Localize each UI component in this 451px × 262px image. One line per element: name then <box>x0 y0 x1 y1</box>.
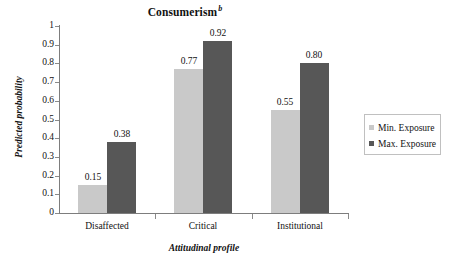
y-axis-title: Predicted probability <box>14 42 24 192</box>
bar-critical-max-exposure[interactable] <box>203 41 232 213</box>
chart-figure: Consumerismb 00.10.20.30.40.50.60.70.80.… <box>0 0 451 262</box>
y-axis-tick-label: 1 <box>14 21 54 31</box>
bar-value-label: 0.38 <box>104 129 140 139</box>
legend-label-min-exposure: Min. Exposure <box>378 123 434 133</box>
bar-institutional-max-exposure[interactable] <box>300 63 329 213</box>
x-axis-title: Attitudinal profile <box>59 243 349 253</box>
bar-value-label: 0.92 <box>200 28 236 38</box>
chart-title: Consumerismb <box>0 4 370 18</box>
chart-legend: Min. Exposure Max. Exposure <box>364 114 441 155</box>
chart-title-text: Consumerism <box>148 6 217 18</box>
x-axis-category-label: Critical <box>155 221 251 232</box>
x-axis-line <box>59 213 349 214</box>
bar-disaffected-max-exposure[interactable] <box>107 142 136 213</box>
legend-swatch-min-exposure-icon <box>369 125 374 130</box>
bar-institutional-min-exposure[interactable] <box>271 110 300 213</box>
x-axis-separator-tick <box>252 214 253 219</box>
chart-title-superscript: b <box>218 4 222 13</box>
legend-swatch-max-exposure-icon <box>369 141 374 146</box>
y-axis-tick-label: 0 <box>14 208 54 218</box>
legend-label-max-exposure: Max. Exposure <box>378 139 436 149</box>
x-axis-category-label: Institutional <box>252 221 348 232</box>
bar-disaffected-min-exposure[interactable] <box>78 185 107 213</box>
bar-value-label: 0.15 <box>75 172 111 182</box>
bar-critical-min-exposure[interactable] <box>174 69 203 213</box>
bar-value-label: 0.77 <box>171 56 207 66</box>
legend-item-max-exposure[interactable]: Max. Exposure <box>369 136 440 151</box>
x-axis-separator-tick <box>155 214 156 219</box>
x-axis-separator-tick <box>348 214 349 219</box>
bar-value-label: 0.55 <box>267 97 303 107</box>
x-axis-category-label: Disaffected <box>59 221 155 232</box>
bar-value-label: 0.80 <box>296 50 332 60</box>
legend-item-min-exposure[interactable]: Min. Exposure <box>369 120 440 135</box>
